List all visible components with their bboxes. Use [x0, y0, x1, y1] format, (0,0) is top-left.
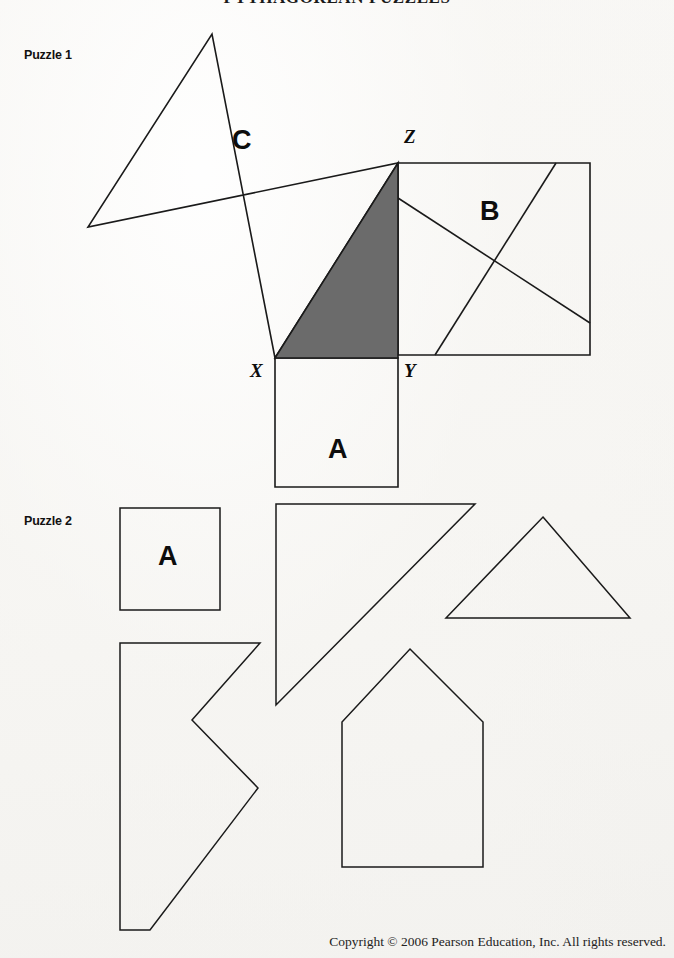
piece-chevron [120, 643, 260, 930]
puzzle1-figure [88, 34, 590, 487]
puzzle1-region-label-b: B [480, 198, 500, 225]
puzzle1-region-label-a: A [328, 436, 348, 463]
figure-canvas [0, 0, 674, 958]
puzzle1-vertex-label-y: Y [404, 361, 416, 380]
page-title: PYTHAGOREAN PUZZLES [0, 0, 674, 8]
puzzle-1-label: Puzzle 1 [24, 48, 72, 62]
shaded-right-triangle [275, 163, 398, 358]
piece-house-pentagon [342, 649, 483, 867]
puzzle2-region-label-a: A [158, 543, 178, 570]
square-a-outline [275, 358, 398, 487]
square-b-outline [398, 163, 590, 355]
puzzle1-vertex-label-z: Z [404, 127, 416, 146]
square-b-cut-ascending [435, 163, 556, 355]
piece-small-triangle [446, 517, 630, 618]
piece-large-triangle [276, 504, 475, 705]
puzzle1-region-label-c: C [232, 127, 252, 154]
puzzle-2-label: Puzzle 2 [24, 514, 72, 528]
worksheet-page: PYTHAGOREAN PUZZLES Puzzle 1 Puzzle 2 CB… [0, 0, 674, 958]
puzzle2-figure [120, 504, 630, 930]
puzzle1-vertex-label-x: X [250, 361, 263, 380]
copyright-notice: Copyright © 2006 Pearson Education, Inc.… [329, 934, 666, 950]
